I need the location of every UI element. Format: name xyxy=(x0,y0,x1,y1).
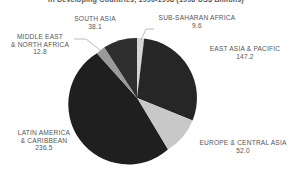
pie-graphic xyxy=(70,22,216,174)
label-sub-saharan-africa: SUB-SAHARAN AFRICA 9.6 xyxy=(146,14,248,29)
label-latin-value: 236.5 xyxy=(2,144,86,152)
label-mena-line1: MIDDLE EAST xyxy=(17,33,63,40)
label-south-asia-value: 38.1 xyxy=(56,23,134,31)
label-europe-central-asia: EUROPE & CENTRAL ASIA 52.0 xyxy=(196,139,290,154)
label-europe-central-asia-name: EUROPE & CENTRAL ASIA xyxy=(199,139,286,146)
label-east-asia-pacific: EAST ASIA & PACIFIC 147.2 xyxy=(202,45,288,60)
label-latin-line2: & CARIBBEAN xyxy=(2,137,86,145)
label-mena-line2: & NORTH AFRICA xyxy=(2,41,78,49)
label-latin-line1: LATIN AMERICA xyxy=(18,129,70,136)
label-mena-value: 12.8 xyxy=(2,48,78,56)
label-sub-saharan-africa-value: 9.6 xyxy=(146,22,248,30)
chart-title: in Developing Countries, 1990-1998 (1998… xyxy=(0,0,292,4)
label-east-asia-pacific-name: EAST ASIA & PACIFIC xyxy=(210,45,281,52)
label-sub-saharan-africa-name: SUB-SAHARAN AFRICA xyxy=(159,14,236,21)
label-europe-central-asia-value: 52.0 xyxy=(196,147,290,155)
label-south-asia-name: SOUTH ASIA xyxy=(74,15,116,22)
pie-chart-figure: in Developing Countries, 1990-1998 (1998… xyxy=(0,0,292,178)
label-middle-east-north-africa: MIDDLE EAST & NORTH AFRICA 12.8 xyxy=(2,33,78,56)
label-south-asia: SOUTH ASIA 38.1 xyxy=(56,15,134,30)
label-latin-america-caribbean: LATIN AMERICA & CARIBBEAN 236.5 xyxy=(2,129,86,152)
label-east-asia-pacific-value: 147.2 xyxy=(202,53,288,61)
pie-svg xyxy=(70,22,216,174)
